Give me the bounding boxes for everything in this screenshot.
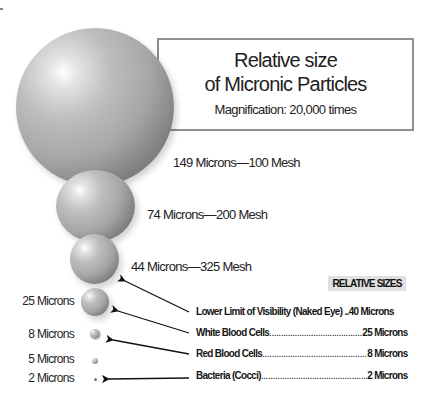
arrow-red-blood-cells [113, 340, 189, 354]
arrow-visibility [125, 281, 189, 312]
arrow-white-blood-cells [118, 311, 189, 333]
pointer-arrows [0, 0, 435, 411]
arrow-bacteria [109, 378, 189, 379]
